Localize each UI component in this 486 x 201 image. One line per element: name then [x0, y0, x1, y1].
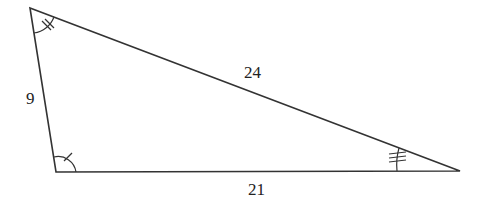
triangle [30, 8, 460, 172]
side-label-hypotenuse: 24 [244, 63, 262, 82]
side-label-bottom: 21 [248, 180, 265, 199]
angle-mark-right [389, 148, 406, 171]
angle-mark-bottom-left [54, 153, 76, 172]
angle-mark-top-left [34, 17, 54, 33]
triangle-diagram: 9 24 21 [0, 0, 486, 201]
side-label-left: 9 [26, 89, 35, 108]
